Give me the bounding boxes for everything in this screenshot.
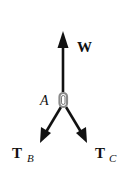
force-tc-label: T C <box>95 145 117 164</box>
ring-a <box>60 93 68 107</box>
free-body-diagram: A W T B T C <box>0 0 122 174</box>
force-tc-symbol: T <box>95 145 105 161</box>
force-tb-arrow <box>40 107 61 143</box>
point-a-label: A <box>39 93 49 108</box>
force-tb-label: T B <box>12 145 34 164</box>
force-tc-arrow <box>66 107 87 143</box>
force-tb-symbol: T <box>12 145 22 161</box>
force-w-arrow <box>58 31 69 92</box>
force-tc-subscript: C <box>109 152 117 164</box>
force-w-label: W <box>77 39 92 55</box>
force-tb-subscript: B <box>27 152 34 164</box>
